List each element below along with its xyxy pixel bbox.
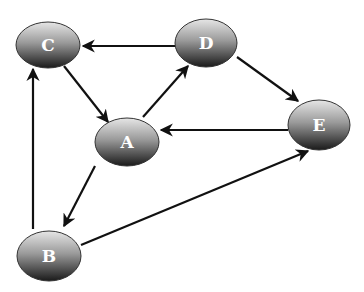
node-label: D bbox=[199, 33, 214, 53]
node-label: A bbox=[119, 132, 134, 152]
node-label: C bbox=[41, 35, 55, 55]
node-label: B bbox=[42, 246, 56, 266]
nodes-group: ABCDE bbox=[16, 19, 350, 281]
node-d: D bbox=[175, 19, 237, 67]
edges-group bbox=[33, 46, 308, 245]
edge-a-to-b bbox=[64, 166, 95, 226]
edge-a-to-d bbox=[143, 66, 188, 117]
edge-d-to-e bbox=[237, 57, 298, 101]
edge-c-to-a bbox=[64, 66, 108, 122]
edge-b-to-e bbox=[81, 151, 308, 245]
node-b: B bbox=[17, 231, 81, 281]
node-label: E bbox=[313, 115, 326, 135]
node-c: C bbox=[16, 22, 80, 68]
directed-graph: ABCDE bbox=[0, 0, 364, 292]
node-a: A bbox=[95, 118, 159, 166]
node-e: E bbox=[288, 100, 350, 150]
